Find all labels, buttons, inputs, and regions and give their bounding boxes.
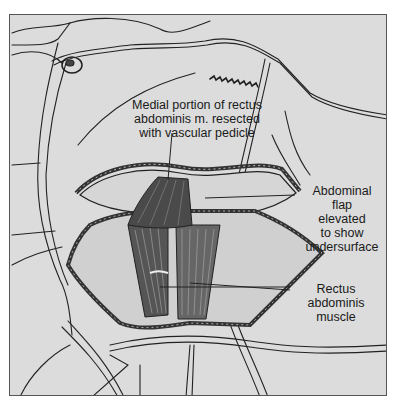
label-resected-muscle: Medial portion of rectus abdominis m. re… [102, 98, 292, 140]
arm-outline [12, 23, 70, 45]
scar-icon [210, 76, 258, 87]
label-abdominal-flap: Abdominal flap elevated to show undersur… [298, 184, 386, 254]
illustration-frame: Medial portion of rectus abdominis m. re… [9, 14, 387, 396]
label-rectus-muscle: Rectus abdominis muscle [296, 282, 376, 324]
